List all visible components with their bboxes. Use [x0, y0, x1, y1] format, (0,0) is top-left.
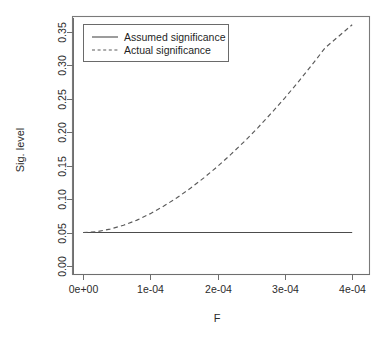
y-tick-label: 0.30 — [56, 55, 68, 76]
y-tick-label: 0.20 — [56, 122, 68, 143]
x-tick-label: 2e-04 — [205, 283, 232, 295]
x-tick-label: 1e-04 — [137, 283, 164, 295]
chart-figure: 0.000.050.100.150.200.250.300.35 0e+001e… — [0, 0, 392, 341]
y-tick-label: 0.35 — [56, 22, 68, 43]
x-tick-label: 0e+00 — [69, 283, 99, 295]
x-axis-title: F — [214, 312, 221, 324]
y-tick-label: 0.25 — [56, 89, 68, 110]
legend-label-actual-significance: Actual significance — [124, 44, 211, 56]
significance-line-chart: 0.000.050.100.150.200.250.300.35 0e+001e… — [0, 0, 392, 341]
y-tick-label: 0.15 — [56, 156, 68, 177]
y-tick-label: 0.00 — [56, 256, 68, 277]
x-tick-label: 4e-04 — [339, 283, 366, 295]
y-tick-label: 0.05 — [56, 223, 68, 244]
x-tick-label: 3e-04 — [272, 283, 299, 295]
legend-label-assumed-significance: Assumed significance — [124, 31, 226, 43]
y-axis-title: Sig. level — [14, 128, 26, 173]
y-tick-label: 0.10 — [56, 189, 68, 210]
chart-legend: Assumed significance Actual significance — [84, 25, 229, 62]
